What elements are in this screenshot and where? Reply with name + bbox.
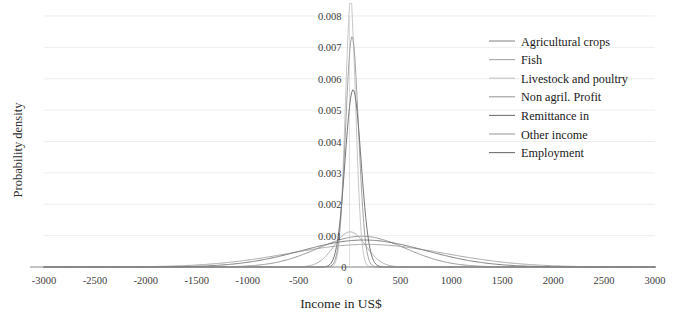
x-tick-label: 2000 — [543, 275, 564, 286]
x-tick-label: 1000 — [441, 275, 462, 286]
x-tick-label: -1000 — [235, 275, 260, 286]
y-tick-label: 0.003 — [318, 168, 342, 179]
y-tick-label: 0.006 — [318, 74, 342, 85]
y-tick-label: 0.005 — [318, 105, 342, 116]
x-tick-label: 3000 — [645, 275, 666, 286]
y-axis-label: Probability density — [11, 102, 25, 198]
x-tick-label: -2000 — [134, 275, 159, 286]
y-tick-label: 0.007 — [318, 42, 342, 53]
x-tick-label: -1500 — [185, 275, 210, 286]
legend-label-1: Fish — [521, 53, 542, 67]
y-tick-label: 0 — [341, 262, 346, 273]
legend-label-6: Employment — [521, 146, 585, 160]
legend-label-0: Agricultural crops — [521, 35, 610, 49]
legend-label-4: Remittance in — [521, 109, 589, 123]
y-tick-label: 0.002 — [318, 199, 342, 210]
y-tick-label: 0.001 — [318, 231, 342, 242]
x-tick-label: -500 — [289, 275, 308, 286]
x-tick-label: -3000 — [32, 275, 57, 286]
x-tick-label: 500 — [393, 275, 409, 286]
legend-label-2: Livestock and poultry — [521, 72, 629, 86]
x-tick-label: -2500 — [83, 275, 108, 286]
income-density-chart: 00.0010.0020.0030.0040.0050.0060.0070.00… — [0, 0, 674, 326]
x-axis-label: Income in US$ — [300, 296, 382, 311]
y-tick-label: 0.004 — [318, 137, 342, 148]
x-tick-label: 1500 — [492, 275, 513, 286]
x-tick-label: 2500 — [594, 275, 615, 286]
y-tick-label: 0.008 — [318, 11, 342, 22]
legend-label-3: Non agril. Profit — [521, 90, 602, 104]
legend-label-5: Other income — [521, 128, 588, 142]
x-tick-label: 0 — [347, 275, 352, 286]
